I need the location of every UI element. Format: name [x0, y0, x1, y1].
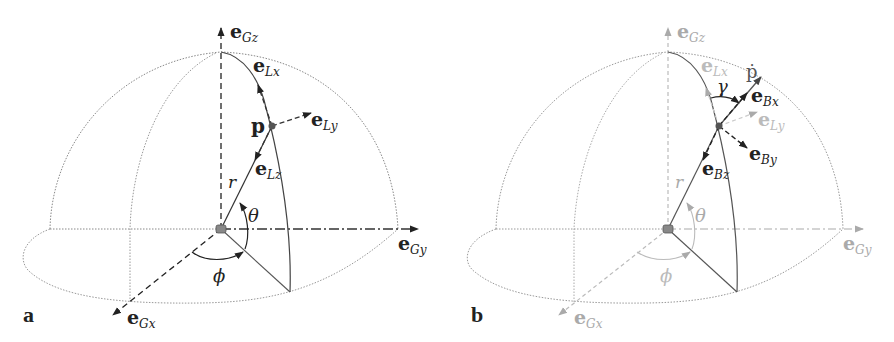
- label-theta: θ: [695, 205, 706, 226]
- label-eLy: eLy: [311, 108, 338, 133]
- label-eGy: eGy: [843, 232, 872, 257]
- origin-marker: [663, 225, 673, 233]
- projection-line: [221, 229, 290, 292]
- label-r: r: [675, 172, 684, 192]
- label-eLy: eLy: [758, 108, 785, 133]
- inner-meridian: [574, 53, 663, 302]
- origin-marker: [216, 225, 226, 233]
- axis-eGx: [559, 229, 668, 315]
- label-eBy: eBy: [749, 142, 777, 167]
- axis-eGx: [113, 229, 221, 315]
- label-eGx: eGx: [574, 306, 603, 331]
- label-eGy: eGy: [398, 232, 427, 257]
- label-r: r: [228, 172, 237, 192]
- ground-ellipse: [467, 229, 843, 303]
- theta-arc: [240, 203, 248, 249]
- label-theta: θ: [248, 205, 259, 226]
- theta-arc: [687, 203, 695, 249]
- phi-arc: [637, 252, 690, 260]
- panel-a: eGz eLx p eLy eLz r θ ϕ eGy eGx a: [23, 20, 427, 331]
- point-p: [269, 123, 276, 130]
- hemisphere-outline: [50, 52, 398, 229]
- label-eLx: eLx: [253, 54, 280, 79]
- vector-eBy: [719, 126, 747, 148]
- label-eGz: eGz: [230, 20, 259, 45]
- label-eGz: eGz: [677, 20, 706, 45]
- panel-letter-b: b: [471, 302, 483, 327]
- gamma-arc: [711, 97, 739, 103]
- panel-letter-a: a: [23, 302, 34, 327]
- label-p: p: [251, 114, 265, 138]
- ground-ellipse: [23, 229, 398, 303]
- panel-b: eGz eLx ṗ γ eBx eLy eBy eBz r θ ϕ eGy eG…: [467, 20, 871, 331]
- point-p: [716, 123, 723, 130]
- label-phi: ϕ: [660, 265, 672, 286]
- figure-canvas: eGz eLx p eLy eLz r θ ϕ eGy eGx a: [0, 0, 894, 342]
- label-eGx: eGx: [127, 306, 156, 331]
- label-eBz: eBz: [702, 157, 730, 182]
- vector-eLy: [272, 113, 311, 126]
- phi-arc: [192, 252, 243, 260]
- label-p-dot: ṗ: [746, 61, 758, 82]
- projection-line: [668, 229, 737, 292]
- hemisphere-outline: [496, 52, 843, 229]
- label-phi: ϕ: [213, 265, 225, 286]
- inner-meridian: [130, 53, 216, 302]
- label-gamma: γ: [717, 76, 728, 97]
